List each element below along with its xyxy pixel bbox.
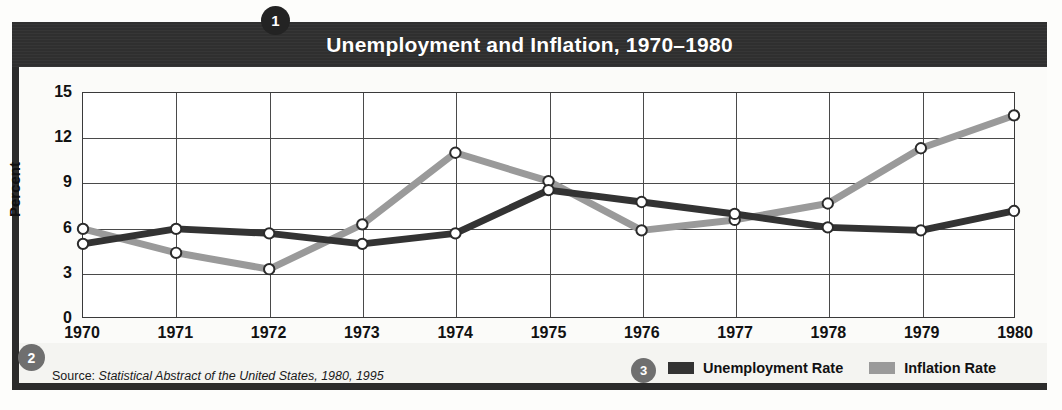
data-point-marker: [264, 264, 274, 274]
chart-title-bar: Unemployment and Inflation, 1970–1980: [12, 22, 1047, 67]
data-point-marker: [450, 228, 460, 238]
x-tick-label: 1976: [602, 324, 682, 342]
data-point-marker: [1009, 110, 1019, 120]
chart-screenshot: Unemployment and Inflation, 1970–1980 1 …: [0, 0, 1062, 410]
source-citation: Statistical Abstract of the United State…: [99, 369, 384, 383]
x-tick-label: 1977: [695, 324, 775, 342]
x-tick-label: 1970: [42, 324, 122, 342]
source-prefix: Source:: [52, 369, 95, 383]
series-layer: [83, 93, 1014, 317]
callout-badge-1: 1: [261, 6, 290, 35]
unemployment-swatch: [668, 362, 694, 374]
x-tick-label: 1979: [882, 324, 962, 342]
y-tick-label: 15: [19, 83, 72, 101]
data-point-marker: [264, 228, 274, 238]
callout-badge-3: 3: [631, 358, 656, 383]
data-point-marker: [357, 219, 367, 229]
x-tick-label: 1980: [975, 324, 1055, 342]
x-tick-label: 1978: [788, 324, 868, 342]
data-point-marker: [636, 197, 646, 207]
data-point-marker: [636, 225, 646, 235]
x-tick-label: 1971: [135, 324, 215, 342]
y-tick-label: 6: [19, 219, 72, 237]
data-point-marker: [730, 209, 740, 219]
plot-area: [82, 92, 1015, 318]
data-point-marker: [916, 225, 926, 235]
data-point-marker: [171, 224, 181, 234]
y-tick-label: 12: [19, 128, 72, 146]
data-point-marker: [823, 198, 833, 208]
callout-badge-2: 2: [18, 344, 45, 371]
x-tick-label: 1972: [229, 324, 309, 342]
x-tick-label: 1973: [322, 324, 402, 342]
chart-legend: Unemployment RateInflation Rate: [668, 360, 996, 376]
y-tick-label: 9: [19, 173, 72, 191]
data-point-marker: [171, 248, 181, 258]
legend-label: Unemployment Rate: [703, 360, 843, 376]
y-tick-label: 3: [19, 264, 72, 282]
inflation-swatch: [869, 362, 895, 374]
source-note: Source: Statistical Abstract of the Unit…: [52, 369, 384, 383]
data-point-marker: [823, 222, 833, 232]
legend-item: Unemployment Rate: [668, 360, 843, 376]
legend-item: Inflation Rate: [869, 360, 996, 376]
plot-container: Percent 03691215 19701971197219731974197…: [19, 67, 1047, 343]
x-tick-label: 1975: [509, 324, 589, 342]
data-point-marker: [450, 148, 460, 158]
data-point-marker: [916, 143, 926, 153]
data-point-marker: [78, 239, 88, 249]
page-title: Unemployment and Inflation, 1970–1980: [326, 33, 733, 57]
legend-label: Inflation Rate: [904, 360, 996, 376]
data-point-marker: [78, 224, 88, 234]
data-point-marker: [1009, 206, 1019, 216]
x-tick-label: 1974: [415, 324, 495, 342]
data-point-marker: [543, 185, 553, 195]
series-line-unemployment-rate: [83, 190, 1014, 244]
data-point-marker: [357, 239, 367, 249]
